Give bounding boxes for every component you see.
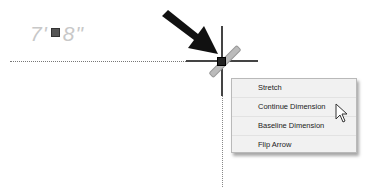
dimension-inches: 8": [63, 22, 84, 45]
menu-item-flip-arrow[interactable]: Flip Arrow: [232, 136, 356, 154]
dimension-line-dotted: [10, 61, 188, 62]
dimension-feet: 7': [30, 22, 48, 45]
menu-item-stretch[interactable]: Stretch: [232, 79, 356, 98]
endpoint-grip[interactable]: [217, 57, 226, 66]
text-grip-handle[interactable]: [51, 28, 60, 37]
extension-line-dotted: [222, 96, 223, 187]
mouse-cursor-icon: [335, 103, 349, 123]
dimension-text[interactable]: 7'8": [30, 22, 84, 46]
large-black-arrow-icon: [160, 8, 222, 58]
